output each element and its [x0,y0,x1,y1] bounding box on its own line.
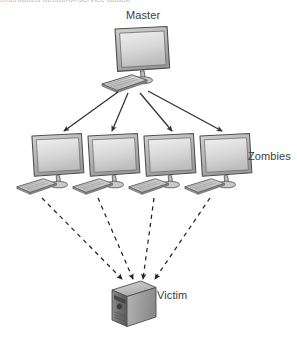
edge-master-zombie-4 [148,91,222,131]
edge-master-zombie-1 [64,92,118,131]
edge-zombie-4-victim [155,198,210,279]
edges-zombies-to-victim [42,198,210,279]
master-monitor-icon [115,27,170,84]
diagram-canvas [0,0,297,341]
edge-zombie-1-victim [42,198,122,279]
zombie-3-keyboard-icon [129,179,169,195]
zombie-4-keyboard-icon [185,179,225,195]
edge-zombie-2-victim [98,198,133,279]
edge-master-zombie-2 [112,93,128,131]
ddos-diagram: Distributed denial-of-service attack [0,0,297,341]
label-zombies: Zombies [248,150,291,162]
label-master: Master [126,9,160,21]
node-zombie-1 [17,133,84,194]
node-master [102,27,170,93]
node-victim [112,281,156,327]
zombie-1-keyboard-icon [17,179,57,195]
zombie-2-keyboard-icon [73,179,113,195]
label-victim: Victim [157,289,187,301]
edges-master-to-zombies [64,91,222,131]
master-keyboard-icon [102,75,147,93]
victim-server-tower-icon [112,281,156,327]
edge-zombie-3-victim [143,198,154,279]
edge-master-zombie-3 [140,93,172,131]
